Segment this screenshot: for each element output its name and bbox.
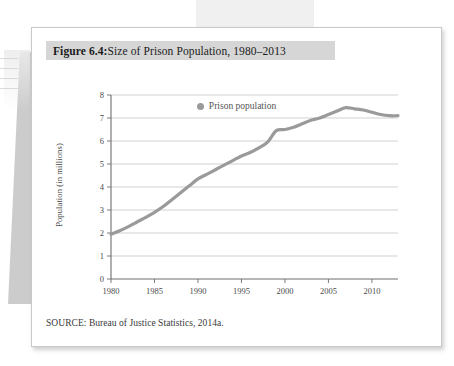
gridlines-group (111, 95, 398, 256)
svg-text:2005: 2005 (320, 286, 337, 296)
svg-text:7: 7 (100, 113, 104, 123)
svg-text:1985: 1985 (146, 286, 163, 296)
svg-text:3: 3 (100, 205, 104, 215)
series-line-prison-population (111, 108, 398, 235)
svg-text:1995: 1995 (233, 286, 250, 296)
svg-text:2: 2 (100, 228, 104, 238)
line-chart-svg: 012345678 1980198519901995200020052010 (32, 28, 441, 346)
page-ruled-lines (0, 58, 18, 98)
svg-text:1: 1 (100, 251, 104, 261)
x-axis-ticks-group: 1980198519901995200020052010 (103, 279, 381, 296)
svg-text:2000: 2000 (276, 286, 293, 296)
svg-text:0: 0 (100, 274, 104, 284)
source-note: SOURCE: Bureau of Justice Statistics, 20… (46, 318, 224, 328)
plot-area: 012345678 1980198519901995200020052010 P… (32, 28, 441, 346)
svg-text:1990: 1990 (189, 286, 206, 296)
svg-text:2010: 2010 (363, 286, 380, 296)
svg-text:4: 4 (100, 182, 105, 192)
y-axis-ticks-group: 012345678 (100, 90, 111, 284)
svg-text:8: 8 (100, 90, 104, 100)
svg-text:5: 5 (100, 159, 104, 169)
y-axis-title: Population (in millions) (54, 125, 64, 245)
svg-text:1980: 1980 (103, 286, 120, 296)
svg-text:6: 6 (100, 136, 104, 146)
figure-card: Figure 6.4: Size of Prison Population, 1… (31, 27, 442, 347)
